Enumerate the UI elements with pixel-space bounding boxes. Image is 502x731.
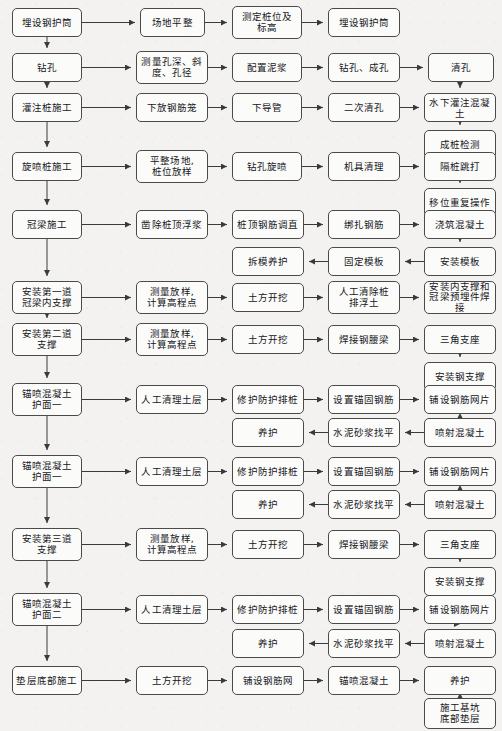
flow-node: 桩顶钢筋调直: [232, 210, 304, 239]
flow-node: 拆模养护: [232, 247, 304, 276]
flow-node: 安装第一道 冠梁内支撑: [12, 281, 82, 314]
flow-node: 修护防护排桩: [232, 385, 304, 414]
flow-node: 铺设钢筋网: [232, 666, 304, 695]
flow-node: 清孔: [428, 53, 494, 82]
flow-node: 测量放样, 计算高程点: [136, 281, 208, 314]
flow-node: 绑扎钢筋: [328, 210, 400, 239]
flow-node: 土方开挖: [136, 666, 208, 695]
flow-node: 埋设钢护筒: [328, 8, 400, 37]
flow-node: 铺设钢筋网片: [424, 385, 496, 414]
flow-node: 平整场地, 桩位放样: [136, 150, 208, 183]
flow-node: 场地平整: [140, 8, 205, 37]
flow-node: 土方开挖: [232, 530, 304, 559]
flow-node: 垫层底部施工: [12, 666, 82, 695]
flow-node: 人工清理土层: [136, 595, 208, 624]
flow-node: 施工基坑 底部垫层: [424, 698, 496, 729]
flow-node: 凿除桩顶浮浆: [136, 210, 208, 239]
flow-node: 安装内支撑和 冠梁预埋件焊接: [424, 281, 496, 314]
flow-node: 下导管: [232, 93, 302, 122]
flow-node: 灌注桩施工: [12, 93, 82, 122]
flow-node: 安装第二道 支撑: [12, 323, 82, 356]
flow-node: 养护: [232, 490, 304, 519]
flow-node: 水泥砂浆找平: [328, 629, 400, 658]
flowchart-canvas: 埋设钢护筒场地平整测定桩位及 标高埋设钢护筒钻孔测量孔深、斜 度、孔径配置泥浆钻…: [0, 0, 502, 731]
flow-node: 钻孔、成孔: [328, 53, 400, 82]
flow-node: 安装模板: [424, 247, 496, 276]
flow-node: 喷射混凝土: [424, 629, 496, 658]
flow-node: 测量孔深、斜 度、孔径: [136, 51, 208, 84]
flow-node: 喷射混凝土: [424, 490, 496, 519]
flow-node: 设置锚固钢筋: [328, 385, 400, 414]
flow-node: 水泥砂浆找平: [328, 490, 400, 519]
flow-node: 人工清除桩 排浮土: [328, 281, 400, 314]
flow-node: 铺设钢筋网片: [424, 595, 496, 624]
flow-node: 养护: [424, 666, 496, 695]
flow-node: 测量放样, 计算高程点: [136, 323, 208, 356]
flow-node: 测量放样, 计算高程点: [136, 528, 208, 561]
flow-node: 土方开挖: [232, 283, 304, 312]
flow-node: 安装第三道 支撑: [12, 528, 82, 561]
flow-node: 旋喷桩施工: [12, 152, 82, 181]
flow-node: 钻孔: [12, 53, 82, 82]
flow-node: 焊接钢腰梁: [328, 530, 400, 559]
flow-node: 三角支座: [424, 530, 496, 559]
flow-node: 安装钢支撑: [424, 567, 496, 596]
flow-node: 土方开挖: [232, 325, 304, 354]
flow-node: 设置锚固钢筋: [328, 595, 400, 624]
flow-node: 固定模板: [328, 247, 400, 276]
flow-node: 修护防护排桩: [232, 457, 304, 486]
flow-node: 三角支座: [424, 325, 496, 354]
flow-node: 设置锚固钢筋: [328, 457, 400, 486]
flow-node: 锚喷混凝土: [328, 666, 400, 695]
flow-node: 埋设钢护筒: [12, 8, 82, 37]
flow-node: 水泥砂浆找平: [328, 418, 400, 447]
flow-node: 机具清理: [328, 152, 400, 181]
flow-node: 钻孔旋喷: [232, 152, 302, 181]
flow-node: 测定桩位及 标高: [232, 6, 302, 39]
flow-node: 铺设钢筋网片: [424, 457, 496, 486]
flow-node: 锚喷混凝土 护面一: [12, 383, 82, 416]
flow-node: 焊接钢腰梁: [328, 325, 400, 354]
flow-node: 修护防护排桩: [232, 595, 304, 624]
flow-node: 配置泥浆: [232, 53, 302, 82]
flow-node: 水下灌注混凝土: [424, 93, 496, 122]
flow-node: 锚喷混凝土 护面二: [12, 593, 82, 626]
flow-node: 喷射混凝土: [424, 418, 496, 447]
flow-node: 下放钢筋笼: [136, 93, 208, 122]
flow-node: 冠梁施工: [12, 210, 82, 239]
flow-node: 二次清孔: [328, 93, 400, 122]
flow-node: 隔桩跳打: [424, 152, 496, 181]
flow-node: 人工清理土层: [136, 457, 208, 486]
flow-node: 人工清理土层: [136, 385, 208, 414]
flow-node: 养护: [232, 629, 304, 658]
flow-node: 锚喷混凝土 护面一: [12, 455, 82, 488]
flow-node: 浇筑混凝土: [424, 210, 496, 239]
flow-node: 养护: [232, 418, 304, 447]
